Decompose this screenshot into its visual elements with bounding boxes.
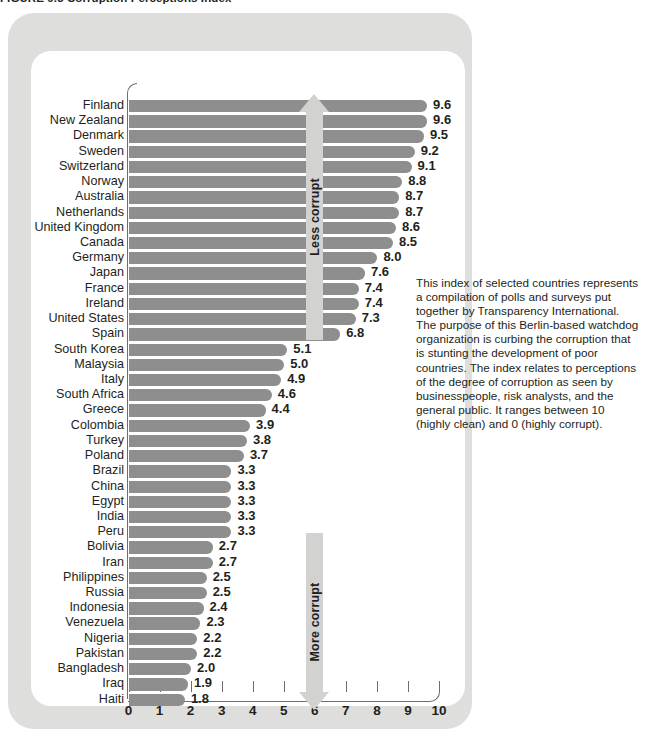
bar-row: South Africa4.6 — [8, 387, 472, 403]
bar-category-label: Canada — [80, 234, 124, 250]
side-note: This index of selected countries represe… — [416, 276, 642, 431]
bar-value-label: 8.8 — [408, 173, 426, 189]
bar-row: Peru3.3 — [8, 524, 472, 540]
bar — [129, 359, 284, 371]
bar-value-label: 3.3 — [237, 508, 255, 524]
bar-row: Iraq1.9 — [8, 676, 472, 692]
less-corrupt-arrow: Less corrupt — [299, 94, 330, 340]
bar-value-label: 2.3 — [206, 614, 224, 630]
bar — [129, 617, 200, 629]
bar-value-label: 3.7 — [250, 447, 268, 463]
bar-category-label: South Africa — [56, 386, 124, 402]
bar — [129, 450, 244, 462]
bar-value-label: 3.9 — [256, 417, 274, 433]
figure-number: FIGURE 9.3 — [0, 0, 64, 4]
bar-value-label: 5.1 — [293, 341, 311, 357]
arrow-down-head-icon — [299, 692, 329, 710]
bar — [129, 602, 204, 614]
bar-category-label: Netherlands — [56, 204, 124, 220]
less-corrupt-label: Less corrupt — [308, 178, 322, 255]
bar-category-label: Nigeria — [84, 630, 124, 646]
bar-value-label: 9.5 — [430, 127, 448, 143]
bar — [129, 572, 207, 584]
bar-value-label: 4.9 — [287, 371, 305, 387]
bar-value-label: 8.7 — [405, 188, 423, 204]
bar — [129, 694, 185, 706]
bar-category-label: New Zealand — [50, 112, 124, 128]
bar-category-label: Colombia — [71, 417, 124, 433]
bar-category-label: Greece — [83, 401, 124, 417]
bar — [129, 663, 191, 675]
bar — [129, 648, 197, 660]
bar-chart: 012345678910 Finland9.6New Zealand9.6Den… — [8, 13, 472, 729]
bar-row: Malaysia5.0 — [8, 357, 472, 373]
bar — [129, 633, 197, 645]
bar-category-label: Australia — [75, 188, 124, 204]
bar-row: Philippines2.5 — [8, 570, 472, 586]
bar-category-label: Russia — [86, 584, 125, 600]
bar — [129, 191, 399, 203]
bar-category-label: Germany — [72, 249, 124, 265]
bar — [129, 541, 213, 553]
bar — [129, 404, 266, 416]
bar-value-label: 7.6 — [371, 264, 389, 280]
bar-value-label: 3.3 — [237, 523, 255, 539]
bar-value-label: 2.5 — [213, 569, 231, 585]
bar-row: Colombia3.9 — [8, 418, 472, 434]
more-corrupt-label: More corrupt — [308, 582, 322, 661]
bar-value-label: 3.3 — [237, 478, 255, 494]
bar-category-label: Denmark — [73, 127, 124, 143]
bar-row: France7.4 — [8, 281, 472, 297]
bar — [129, 130, 424, 142]
bar-value-label: 9.6 — [433, 97, 451, 113]
bar-value-label: 8.0 — [383, 249, 401, 265]
bar-value-label: 8.7 — [405, 204, 423, 220]
bar-category-label: Haiti — [99, 691, 124, 707]
bar-value-label: 2.7 — [219, 554, 237, 570]
bar-category-label: Spain — [92, 325, 124, 341]
bar-row: Venezuela2.3 — [8, 615, 472, 631]
bar — [129, 465, 231, 477]
bar-category-label: Iraq — [102, 675, 124, 691]
bar — [129, 100, 427, 112]
bar-row: Haiti1.8 — [8, 692, 472, 708]
bar — [129, 420, 250, 432]
bar — [129, 678, 188, 690]
bar-value-label: 2.0 — [197, 660, 215, 676]
bar-category-label: United States — [48, 310, 124, 326]
bar-category-label: Philippines — [63, 569, 124, 585]
more-corrupt-arrow: More corrupt — [299, 533, 330, 710]
bar — [129, 496, 231, 508]
bar-category-label: Norway — [81, 173, 124, 189]
bar-category-label: South Korea — [54, 341, 124, 357]
bar-value-label: 9.6 — [433, 112, 451, 128]
bar-category-label: Venezuela — [65, 614, 124, 630]
bar-value-label: 7.4 — [365, 295, 383, 311]
bar — [129, 222, 396, 234]
bar-value-label: 7.3 — [362, 310, 380, 326]
bar-value-label: 3.8 — [253, 432, 271, 448]
bar-row: Bangladesh2.0 — [8, 661, 472, 677]
bar-value-label: 8.6 — [402, 219, 420, 235]
bar-value-label: 7.4 — [365, 280, 383, 296]
bar-row: Germany8.0 — [8, 250, 472, 266]
bar-category-label: Finland — [83, 97, 124, 113]
bar-category-label: Brazil — [93, 462, 125, 478]
bar-category-label: India — [97, 508, 124, 524]
figure-title-text: Corruption Perceptions Index — [67, 0, 231, 4]
bar — [129, 526, 231, 538]
bar — [129, 344, 287, 356]
bar-value-label: 4.6 — [278, 386, 296, 402]
bar-category-label: Indonesia — [69, 599, 124, 615]
bar — [129, 252, 377, 264]
bar — [129, 207, 399, 219]
bar-value-label: 4.4 — [272, 401, 290, 417]
bar-value-label: 9.1 — [418, 158, 436, 174]
bar-value-label: 2.5 — [213, 584, 231, 600]
bar-value-label: 3.3 — [237, 493, 255, 509]
bar-value-label: 2.2 — [203, 630, 221, 646]
bar-row: Switzerland9.1 — [8, 159, 472, 175]
bar-value-label: 2.7 — [219, 538, 237, 554]
bar-row: Turkey3.8 — [8, 433, 472, 449]
bar — [129, 115, 427, 127]
